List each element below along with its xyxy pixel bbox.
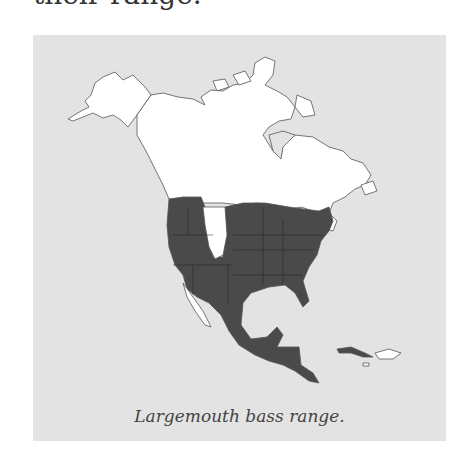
- preceding-text: their range.: [33, 0, 202, 11]
- figure: Largemouth bass range.: [33, 35, 446, 441]
- cuba-shape: [337, 347, 373, 357]
- hispaniola-shape: [375, 349, 401, 359]
- greenland-edge: [295, 95, 315, 117]
- figure-caption: Largemouth bass range.: [33, 406, 446, 426]
- bass-range-shape: [167, 197, 333, 383]
- jamaica-shape: [363, 363, 369, 366]
- north-america-range-map: [33, 35, 446, 441]
